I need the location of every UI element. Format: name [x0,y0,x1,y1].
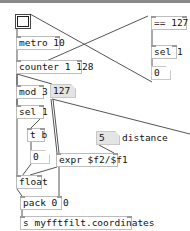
float-object[interactable]: float [16,175,42,189]
equals-object[interactable]: == 127 [151,16,187,30]
number-box-distance[interactable]: 5 [96,131,120,145]
send-object[interactable]: s myfftfilt.coordinates [20,216,132,230]
metro-object[interactable]: metro 10 [16,36,60,50]
bang-button[interactable] [15,14,31,29]
expr-object[interactable]: expr $f2/$f1 [56,153,118,167]
counter-object[interactable]: counter 1 128 [16,60,82,74]
pack-object[interactable]: pack 0 0 [20,196,62,210]
number-box-zero[interactable]: 0 [30,150,50,164]
mod-object[interactable]: mod 3 [16,85,44,99]
sel-top-object[interactable]: sel 1 [151,45,177,59]
window-top-edge [0,0,190,3]
distance-label: distance [122,132,168,144]
trigger-object[interactable]: t b [27,128,45,142]
number-box-127[interactable]: 127 [50,84,76,98]
bang-circle-icon [17,16,29,27]
zero-message-top[interactable]: 0 [151,66,171,80]
sel-mid-object[interactable]: sel 1 [16,105,44,119]
